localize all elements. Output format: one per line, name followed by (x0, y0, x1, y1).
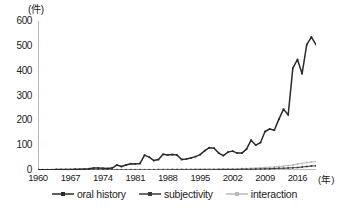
series-marker (204, 169, 206, 170)
legend-label: oral history (77, 188, 126, 200)
legend-item[interactable]: oral history (52, 188, 126, 200)
series-marker (269, 168, 271, 170)
series-marker (111, 169, 113, 170)
series-marker (213, 169, 215, 170)
series-marker (213, 147, 215, 149)
series-marker (311, 161, 313, 163)
x-tick-label: 1967 (53, 172, 87, 183)
series-marker (218, 169, 220, 170)
series-marker (46, 169, 48, 170)
series-marker (181, 159, 183, 161)
series-marker (65, 169, 67, 170)
series-marker (297, 59, 299, 61)
series-marker (199, 154, 201, 156)
series-canvas (38, 21, 316, 170)
series-marker (315, 44, 316, 46)
series-marker (139, 169, 141, 170)
y-axis-unit-label: (件) (28, 1, 44, 16)
series-marker (116, 169, 118, 170)
x-tick-label: 1974 (86, 172, 120, 183)
series-marker (51, 169, 53, 170)
series-marker (287, 165, 289, 167)
series-marker (130, 163, 132, 165)
series-marker (185, 158, 187, 160)
series-marker (116, 164, 118, 166)
series-marker (139, 163, 141, 165)
series-marker (301, 73, 303, 75)
legend-item[interactable]: subjectivity (139, 188, 213, 200)
series-marker (306, 44, 308, 46)
series-marker (227, 151, 229, 153)
series-marker (218, 152, 220, 154)
series-marker (269, 128, 271, 130)
series-marker (153, 160, 155, 162)
legend-label: interaction (251, 188, 297, 200)
series-marker (190, 169, 192, 170)
series-marker (232, 150, 234, 152)
series-marker (278, 166, 280, 168)
series-marker (246, 168, 248, 170)
series-marker (209, 169, 211, 170)
chart-container: (件) (年) 6005004003002001000 196019671974… (0, 0, 349, 211)
series-marker (74, 168, 76, 170)
series-marker (311, 36, 313, 38)
series-marker (172, 154, 174, 156)
series-marker (38, 169, 39, 170)
x-tick-label: 2009 (248, 172, 282, 183)
series-marker (241, 168, 243, 170)
series-marker (204, 150, 206, 152)
series-marker (250, 168, 252, 170)
series-marker (297, 167, 299, 169)
series-marker (315, 161, 316, 163)
series-marker (232, 169, 234, 170)
series-marker (176, 169, 178, 170)
series-marker (264, 131, 266, 133)
series-marker (311, 165, 313, 167)
series-marker (222, 155, 224, 157)
series-marker (158, 169, 160, 170)
series-marker (162, 154, 164, 156)
series-marker (301, 166, 303, 168)
series-marker (111, 167, 113, 169)
series-marker (255, 168, 257, 170)
series-marker (287, 167, 289, 169)
legend-item[interactable]: interaction (226, 188, 297, 200)
x-axis-unit-label: (年) (318, 172, 334, 186)
series-marker (70, 169, 72, 170)
series-marker (278, 118, 280, 120)
series-marker (250, 139, 252, 141)
series-marker (273, 166, 275, 168)
x-tick-label: 1988 (151, 172, 185, 183)
series-marker (144, 169, 146, 170)
series-marker (162, 169, 164, 170)
series-marker (199, 169, 201, 170)
x-tick-label: 1995 (183, 172, 217, 183)
series-marker (148, 156, 150, 158)
series-marker (102, 167, 104, 169)
series-marker (102, 169, 104, 170)
y-tick-label: 200 (2, 114, 32, 125)
x-tick-label: 2016 (280, 172, 314, 183)
series-marker (236, 152, 238, 154)
series-marker (130, 169, 132, 170)
chart-legend: oral historysubjectivityinteraction (0, 188, 349, 200)
series-marker (42, 169, 44, 170)
series-marker (88, 168, 90, 170)
series-marker (121, 166, 123, 168)
series-marker (153, 169, 155, 170)
series-marker (306, 166, 308, 168)
series-marker (56, 169, 58, 170)
series-marker (190, 157, 192, 159)
y-tick-label: 400 (2, 65, 32, 76)
series-marker (255, 144, 257, 146)
series-marker (260, 142, 262, 144)
legend-label: subjectivity (164, 188, 213, 200)
series-marker (273, 129, 275, 131)
series-marker (283, 108, 285, 110)
series-marker (260, 168, 262, 170)
y-tick-label: 300 (2, 90, 32, 101)
legend-marker-icon (226, 189, 248, 199)
series-marker (144, 154, 146, 156)
x-tick-label: 1981 (118, 172, 152, 183)
series-marker (79, 168, 81, 170)
